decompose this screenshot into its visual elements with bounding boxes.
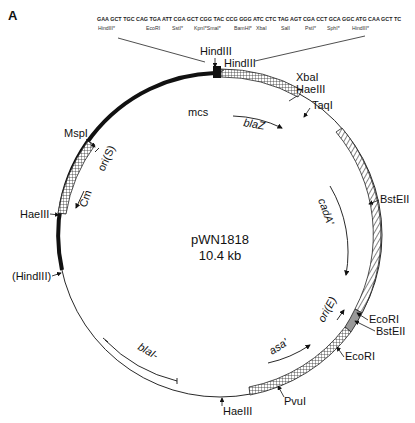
cadA-arrow — [330, 186, 348, 275]
mcs-site-label: BamHI* — [234, 25, 252, 31]
site-label-haeIII-left: HaeIII — [20, 208, 49, 220]
plasmid-size: 10.4 kb — [199, 248, 242, 263]
mcs-sequence: GAA GCT TGC CAG TGA ATT CGA GCT CGG TAC … — [97, 16, 401, 22]
site-label-hindIII-top: HindIII — [200, 45, 232, 57]
feature-label-mcs: mcs — [188, 106, 209, 118]
mcs-site-label: SphI* — [327, 25, 340, 31]
blaZ-segment — [221, 69, 302, 97]
feature-label-cadA: cadA' — [316, 197, 337, 227]
mcs-site-label: PstI* — [305, 25, 316, 31]
mcs-site-label: XbaI — [256, 25, 267, 31]
mcs-site-labels: HindIII* EcoRI SstI* KpnI*SmaI* BamHI* X… — [98, 25, 369, 31]
site-label-hindIII-top-2: HindIII — [224, 57, 256, 69]
mcs-site-label: SstI* — [172, 25, 183, 31]
blaI-tick — [103, 338, 108, 342]
site-label-ecoRI-1: EcoRI — [369, 313, 399, 325]
mcs-expansion-line — [255, 36, 365, 61]
mcs-site-label: EcoRI — [146, 25, 160, 31]
oriS-bracket — [95, 148, 99, 152]
mcs-expansion-line — [118, 38, 205, 62]
site-leader — [289, 96, 297, 101]
mcs-site-label: KpnI*SmaI* — [194, 25, 221, 31]
asa-segment — [249, 327, 351, 395]
plasmid-map: A GAA GCT TGC CAG TGA ATT CGA GCT CGG TA… — [0, 0, 415, 423]
feature-label-asa: asa' — [267, 336, 291, 357]
feature-label-blaZ: blaZ — [243, 116, 267, 132]
site-label-taqI: TaqI — [312, 99, 333, 111]
feature-label-oriS: ori(S) — [95, 143, 117, 172]
feature-label-blaI: blaI- — [136, 340, 161, 361]
feature-label-Cm: Cm — [77, 189, 94, 209]
site-label-bstEII-1: BstEII — [380, 193, 409, 205]
plasmid-name: pWN1818 — [191, 232, 249, 247]
site-leader — [52, 273, 61, 276]
mcs-site-label: HindIII* — [98, 25, 115, 31]
site-label-haeIII-bottom: HaeIII — [223, 405, 252, 417]
mcs-box — [213, 66, 221, 78]
site-label-xbaI: XbaI — [296, 71, 319, 83]
site-label-bstEII-2: BstEII — [376, 325, 405, 337]
site-label-pvuI: PvuI — [284, 395, 306, 407]
site-leader — [337, 347, 344, 357]
site-label-haeIII-top: HaeIII — [296, 83, 325, 95]
mcs-site-label: HindIII* — [352, 25, 369, 31]
site-leader — [304, 108, 310, 117]
site-label-mspI: MspI — [64, 127, 88, 139]
oriE-arrow — [337, 310, 344, 320]
site-leader — [278, 386, 284, 397]
feature-label-oriE: ori(E) — [315, 294, 338, 324]
site-label-hindIII-paren: (HindIII) — [12, 270, 51, 282]
mcs-site-label: SalI — [281, 25, 290, 31]
panel-label: A — [8, 8, 18, 23]
oriE-segment — [345, 309, 362, 332]
site-label-ecoRI-2: EcoRI — [345, 350, 375, 362]
